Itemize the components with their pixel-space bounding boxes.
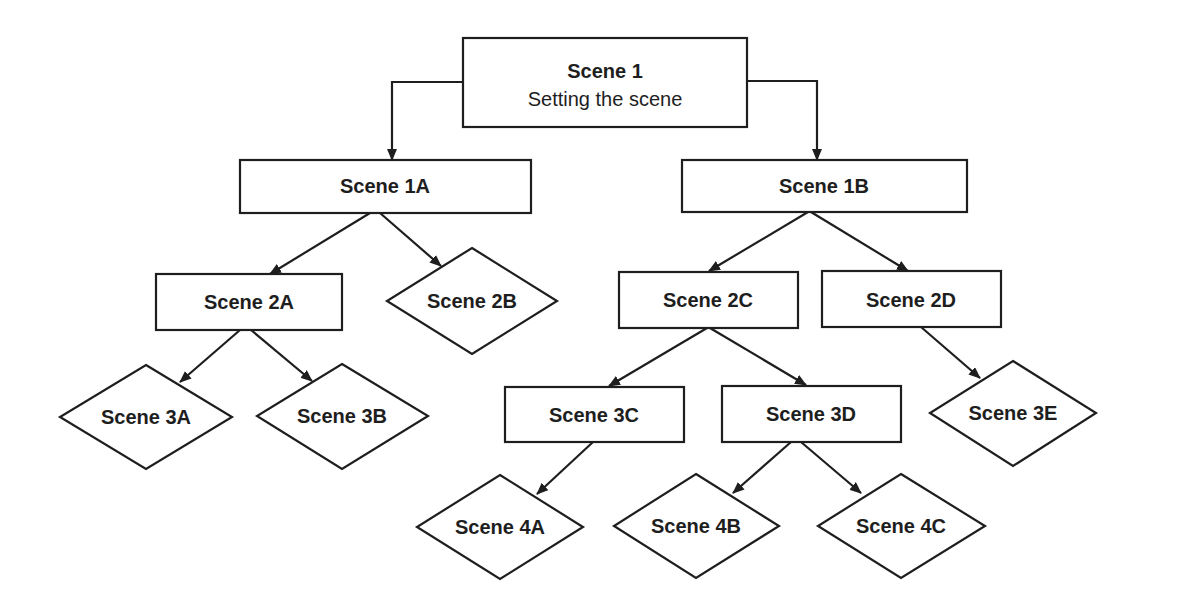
node-scene4A: Scene 4A <box>417 475 583 579</box>
node-scene2D-label: Scene 2D <box>866 289 956 311</box>
node-scene4C-label: Scene 4C <box>856 515 946 537</box>
edge-scene3C-to-scene4A <box>537 442 593 494</box>
node-scene4C: Scene 4C <box>818 474 985 578</box>
edge-scene1A-to-scene2A <box>270 213 370 274</box>
node-scene3A-label: Scene 3A <box>101 406 191 428</box>
node-scene4B-label: Scene 4B <box>651 515 741 537</box>
node-scene3C: Scene 3C <box>505 387 684 442</box>
node-scene2B: Scene 2B <box>387 248 557 354</box>
node-scene3D: Scene 3D <box>722 386 901 442</box>
node-scene1-label: Scene 1 <box>567 60 643 82</box>
edge-scene1A-to-scene2B <box>380 213 441 266</box>
edge-scene3D-to-scene4B <box>733 442 791 493</box>
node-scene3A: Scene 3A <box>60 365 232 469</box>
edge-scene1B-to-scene2C <box>709 212 808 271</box>
node-scene1A-label: Scene 1A <box>340 175 430 197</box>
edge-scene2A-to-scene3B <box>251 330 312 381</box>
node-scene3C-label: Scene 3C <box>549 404 639 426</box>
edge-scene3D-to-scene4C <box>801 442 861 493</box>
node-scene4A-label: Scene 4A <box>455 516 545 538</box>
node-scene2D: Scene 2D <box>822 271 1001 327</box>
edge-scene2A-to-scene3A <box>180 330 240 382</box>
node-scene1A: Scene 1A <box>240 160 531 213</box>
node-scene1: Scene 1 Setting the scene <box>463 38 747 127</box>
flowchart: Scene 1 Setting the scene Scene 1A Scene… <box>0 0 1184 609</box>
node-scene4B: Scene 4B <box>614 474 779 578</box>
node-scene3D-label: Scene 3D <box>766 403 856 425</box>
node-scene1B-label: Scene 1B <box>779 175 869 197</box>
node-scene2B-label: Scene 2B <box>427 290 517 312</box>
edge-scene1B-to-scene2D <box>811 212 908 271</box>
node-scene2C: Scene 2C <box>619 272 798 328</box>
node-scene3B-label: Scene 3B <box>297 405 387 427</box>
edge-scene2D-to-scene3E <box>921 327 980 378</box>
node-scene2C-label: Scene 2C <box>663 289 753 311</box>
edge-scene1-to-scene1B <box>747 81 817 160</box>
edge-scene1-to-scene1A <box>392 82 463 160</box>
node-scene2A-label: Scene 2A <box>204 291 294 313</box>
edge-scene2C-to-scene3D <box>710 328 806 385</box>
node-scene3B: Scene 3B <box>257 364 428 469</box>
node-scene1-sublabel: Setting the scene <box>528 88 683 110</box>
node-scene3E-label: Scene 3E <box>969 402 1058 424</box>
node-scene3E: Scene 3E <box>930 361 1096 466</box>
node-scene1B: Scene 1B <box>682 160 967 212</box>
edge-scene2C-to-scene3C <box>609 328 707 386</box>
node-scene2A: Scene 2A <box>156 274 342 330</box>
